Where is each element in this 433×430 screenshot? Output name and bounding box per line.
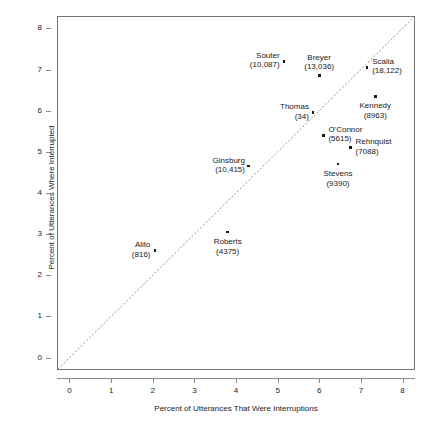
scatter-plot-figure: 012345678 012345678 Souter(10,087)Breyer… [0, 0, 433, 430]
data-point-label-name: Breyer [304, 53, 334, 63]
data-point-label-name: Ginsburg [212, 156, 244, 166]
data-point [247, 165, 250, 168]
y-tick-label: 0 [22, 353, 42, 362]
y-tick-label: 2 [22, 270, 42, 279]
data-point-label-name: Thomas [280, 102, 309, 112]
data-point-label-name: Roberts [214, 237, 242, 247]
y-tick-mark [46, 358, 51, 359]
data-point-label-count: (8963) [359, 111, 391, 121]
x-tick-label: 3 [184, 386, 204, 396]
data-point [154, 249, 157, 252]
data-point [366, 66, 369, 69]
data-point-label: Kennedy(8963) [359, 101, 391, 120]
x-tick-label: 4 [226, 386, 246, 396]
x-tick-mark [194, 378, 195, 383]
data-point [312, 111, 315, 114]
data-point [318, 74, 321, 77]
data-point [374, 95, 377, 98]
data-point-label: Ginsburg(10,415) [212, 156, 244, 175]
data-point-label-name: Souter [250, 51, 280, 61]
x-tick-mark [236, 378, 237, 383]
x-axis-title: Percent of Utterances That Were Interrup… [57, 404, 415, 413]
x-tick-label: 7 [351, 386, 371, 396]
x-tick-mark [153, 378, 154, 383]
data-point-label: Scalia(18,122) [372, 57, 402, 76]
y-tick-label: 7 [22, 65, 42, 74]
x-tick-mark [69, 378, 70, 383]
data-point-label-count: (4375) [214, 247, 242, 257]
x-tick-mark [278, 378, 279, 383]
data-point-label-name: Rehnquist [355, 137, 391, 147]
y-tick-label: 3 [22, 229, 42, 238]
y-tick-label: 4 [22, 188, 42, 197]
data-point-label: Souter(10,087) [250, 51, 280, 70]
data-point-label-count: (10,415) [212, 165, 244, 175]
data-point-label-count: (34) [280, 112, 309, 122]
data-point-label-count: (7088) [355, 147, 391, 157]
y-tick-mark [46, 28, 51, 29]
data-point-label-name: Scalia [372, 57, 402, 67]
data-point-label-name: Alito [132, 240, 151, 250]
data-point-label-count: (18,122) [372, 66, 402, 76]
data-point-label-count: (9390) [323, 179, 352, 189]
data-point [322, 134, 325, 137]
x-tick-label: 6 [309, 386, 329, 396]
y-axis-title: Percent of Utterances Where Interrupted [47, 68, 56, 328]
data-point [283, 60, 286, 63]
data-point-label: Roberts(4375) [214, 237, 242, 256]
x-tick-label: 0 [59, 386, 79, 396]
data-point-label-count: (13,036) [304, 62, 334, 72]
x-tick-mark [111, 378, 112, 383]
x-tick-label: 2 [143, 386, 163, 396]
data-point [337, 163, 340, 166]
y-tick-label: 1 [22, 311, 42, 320]
x-tick-mark [319, 378, 320, 383]
y-tick-label: 5 [22, 147, 42, 156]
data-point-label-count: (10,087) [250, 60, 280, 70]
y-tick-label: 8 [22, 23, 42, 32]
y-tick-label: 6 [22, 106, 42, 115]
data-point-label: Thomas(34) [280, 102, 309, 121]
data-point [349, 146, 352, 149]
data-point-label-name: O'Connor [328, 125, 362, 135]
x-tick-label: 5 [268, 386, 288, 396]
data-point-label-count: (816) [132, 250, 151, 260]
data-point-label: Breyer(13,036) [304, 53, 334, 72]
data-point-label-name: Stevens [323, 169, 352, 179]
data-point-label-name: Kennedy [359, 101, 391, 111]
x-tick-label: 8 [393, 386, 413, 396]
data-point-label: Stevens(9390) [323, 169, 352, 188]
x-tick-label: 1 [101, 386, 121, 396]
data-point [226, 231, 229, 234]
plot-area-frame [57, 16, 415, 370]
x-tick-mark [403, 378, 404, 383]
x-tick-mark [361, 378, 362, 383]
data-point-label: Rehnquist(7088) [355, 137, 391, 156]
data-point-label: Alito(816) [132, 240, 151, 259]
